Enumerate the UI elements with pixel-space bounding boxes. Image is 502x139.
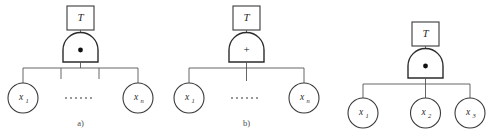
ellipsis-a [65, 97, 92, 99]
and-gate-a [63, 33, 98, 63]
diagram-b-svg: T + x 1 x n [168, 0, 336, 139]
leaf-label-c-2: x [420, 107, 426, 117]
diagram-a-svg: T x 1 x n [0, 0, 168, 139]
top-event-label-a: T [77, 11, 84, 23]
ellipsis-b [231, 97, 258, 99]
top-event-label-b: T [243, 11, 250, 23]
caption-a: a) [77, 118, 84, 128]
diagram-b: T + x 1 x n [168, 0, 336, 139]
leaf-label-a-2: x [133, 92, 139, 102]
leaf-label-c-3: x [465, 107, 471, 117]
leaf-label-b-2: x [299, 92, 305, 102]
figure-canvas: T x 1 x n [0, 0, 502, 139]
diagram-c-svg: T x 1 x 2 x 3 [336, 0, 502, 139]
leaf-sub-b-2: n [306, 97, 309, 104]
diagram-a: T x 1 x n [0, 0, 168, 139]
leaf-label-b-1: x [184, 92, 190, 102]
or-gate-plus-icon-b: + [243, 43, 249, 55]
and-gate-dot-icon-c [423, 64, 428, 69]
leaf-label-a-1: x [18, 92, 24, 102]
leaf-sub-a-2: n [140, 97, 143, 104]
top-event-label-c: T [422, 27, 429, 39]
diagram-c: T x 1 x 2 x 3 [336, 0, 502, 139]
and-gate-dot-icon-a [78, 48, 83, 53]
and-gate-c [408, 49, 443, 79]
leaf-sub-b-1: 1 [191, 97, 194, 104]
caption-b: b) [243, 118, 250, 128]
leaf-sub-a-1: 1 [25, 97, 28, 104]
leaf-sub-c-1: 1 [365, 112, 368, 119]
leaf-label-c-1: x [358, 107, 364, 117]
